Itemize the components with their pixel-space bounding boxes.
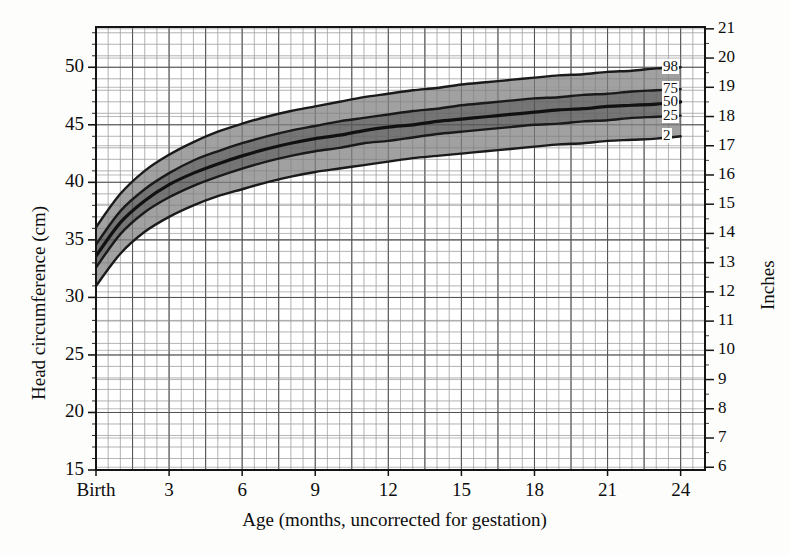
y-axis-tick-label: 30 [38,285,84,307]
x-axis-tick-label: 21 [568,479,648,501]
y-axis-tick-label: 45 [38,113,84,135]
x-axis-title: Age (months, uncorrected for gestation) [0,509,789,531]
y2-axis-tick-label: 15 [718,193,758,213]
x-axis-tick-label: 24 [641,479,721,501]
y2-axis-tick-label: 8 [718,398,758,418]
x-axis-tick-label: 6 [202,479,282,501]
y-axis-tick-label: 20 [38,400,84,422]
percentile-label-98: 98 [662,59,679,74]
y2-axis-tick-label: 16 [718,164,758,184]
y2-axis-tick-label: 19 [718,76,758,96]
growth-chart: Head circumference (cm) Inches Age (mont… [0,0,789,555]
percentile-label-2: 2 [662,128,672,143]
y2-axis-tick-label: 6 [718,456,758,476]
y2-axis-tick-label: 17 [718,135,758,155]
y-axis-tick-label: 25 [38,343,84,365]
y2-axis-title: Inches [757,260,779,310]
y2-axis-tick-label: 10 [718,339,758,359]
y-axis-tick-label: 15 [38,458,84,480]
y2-axis-tick-label: 13 [718,252,758,272]
y2-axis-tick-label: 11 [718,310,758,330]
y2-axis-tick-label: 21 [718,18,758,38]
x-axis-tick-label: 3 [129,479,209,501]
y2-axis-tick-label: 9 [718,369,758,389]
y2-axis-tick-label: 14 [718,222,758,242]
y-axis-tick-label: 50 [38,55,84,77]
y2-axis-tick-label: 12 [718,281,758,301]
y-axis-tick-label: 40 [38,170,84,192]
y2-axis-tick-label: 20 [718,47,758,67]
percentile-label-25: 25 [662,108,679,123]
y2-axis-tick-label: 18 [718,106,758,126]
y2-axis-tick-label: 7 [718,427,758,447]
y-axis-tick-label: 35 [38,228,84,250]
x-axis-tick-label: 18 [494,479,574,501]
x-axis-tick-label: 12 [348,479,428,501]
x-axis-tick-label: 15 [421,479,501,501]
x-axis-tick-label: Birth [56,479,136,501]
x-axis-tick-label: 9 [275,479,355,501]
